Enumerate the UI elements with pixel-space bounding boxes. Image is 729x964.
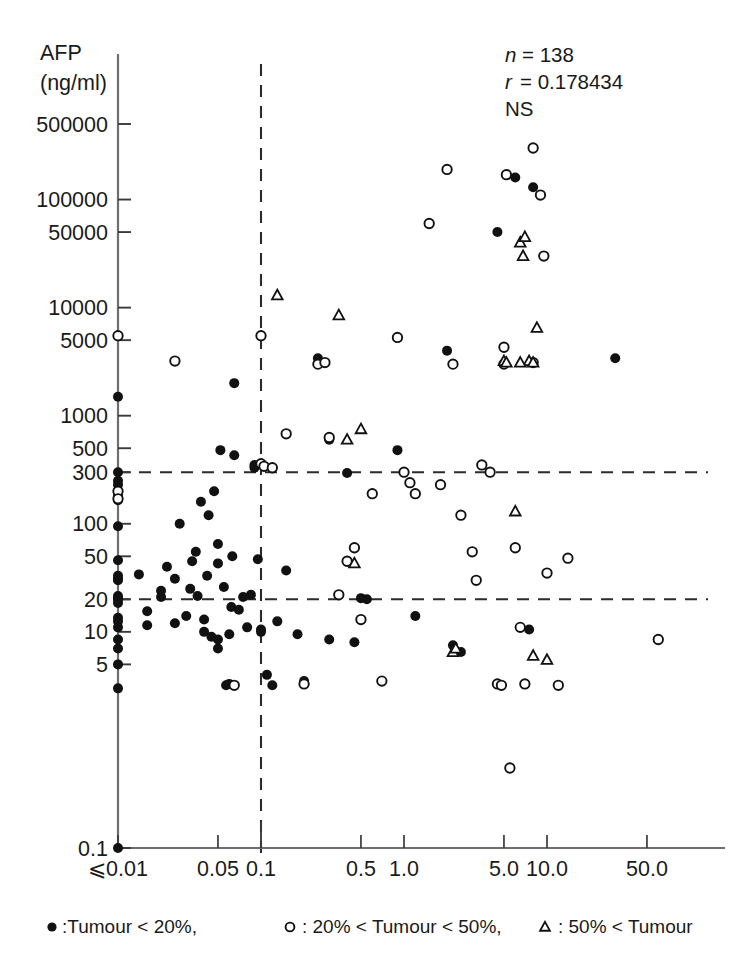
data-point-0-40 — [202, 571, 212, 581]
data-point-0-37 — [196, 497, 206, 507]
data-point-2-14 — [532, 322, 543, 332]
y-axis-unit: (ng/ml) — [40, 71, 107, 95]
data-point-1-29 — [472, 576, 481, 585]
y-tick-label-10: 10000 — [48, 296, 108, 320]
data-point-0-48 — [215, 445, 225, 455]
data-point-0-7 — [113, 613, 123, 623]
y-tick-label-2: 10 — [84, 620, 108, 644]
data-point-0-75 — [342, 468, 352, 478]
data-point-0-29 — [170, 618, 180, 628]
data-point-0-28 — [162, 562, 172, 572]
data-point-1-18 — [377, 676, 386, 685]
data-point-0-30 — [170, 574, 180, 584]
data-point-2-8 — [510, 506, 521, 516]
data-point-1-26 — [448, 359, 457, 368]
data-point-1-0 — [113, 331, 122, 340]
data-point-1-13 — [334, 590, 343, 599]
y-tick-label-7: 500 — [72, 437, 108, 461]
data-point-1-15 — [350, 543, 359, 552]
data-point-0-56 — [229, 378, 239, 388]
y-tick-label-4: 50 — [84, 545, 108, 569]
data-point-1-8 — [281, 429, 290, 438]
data-point-0-34 — [187, 556, 197, 566]
y-tick-label-11: 50000 — [48, 221, 108, 245]
data-point-2-16 — [542, 654, 553, 664]
data-point-1-41 — [528, 143, 537, 152]
legend-marker-triangle — [540, 922, 550, 931]
x-tick-label-2: 0.1 — [246, 857, 276, 881]
data-point-1-33 — [497, 681, 506, 690]
data-point-0-20 — [113, 476, 123, 486]
data-point-0-44 — [213, 644, 223, 654]
data-point-0-3 — [113, 644, 123, 654]
data-point-1-22 — [411, 489, 420, 498]
y-tick-label-12: 100000 — [36, 188, 108, 212]
data-point-1-36 — [502, 170, 511, 179]
x-tick-label-1: 0.05 — [197, 857, 239, 881]
data-point-0-70 — [293, 629, 303, 639]
data-point-1-37 — [505, 763, 514, 772]
data-point-1-39 — [516, 623, 525, 632]
annotation-significance: NS — [505, 97, 533, 120]
x-tick-label-6: 10.0 — [526, 857, 568, 881]
data-point-1-20 — [399, 468, 408, 477]
y-tick-label-3: 20 — [84, 588, 108, 612]
data-point-1-21 — [405, 478, 414, 487]
data-point-0-35 — [191, 547, 201, 557]
data-point-0-0 — [113, 843, 123, 853]
data-point-0-68 — [272, 616, 282, 626]
y-tick-label-5: 100 — [72, 512, 108, 536]
data-point-0-49 — [219, 582, 229, 592]
y-tick-label-8: 1000 — [60, 404, 108, 428]
data-point-0-39 — [199, 615, 209, 625]
data-point-0-78 — [362, 594, 372, 604]
y-axis-title: AFP — [40, 41, 82, 65]
data-point-1-25 — [442, 165, 451, 174]
data-point-0-25 — [142, 606, 152, 616]
data-point-1-27 — [456, 511, 465, 520]
data-point-1-46 — [554, 681, 563, 690]
data-point-0-65 — [256, 627, 266, 637]
data-point-1-7 — [268, 463, 277, 472]
data-point-0-63 — [253, 554, 263, 564]
data-point-1-38 — [511, 543, 520, 552]
x-tick-label-7: 50.0 — [626, 857, 668, 881]
data-point-0-14 — [113, 571, 123, 581]
annotation-n-symbol: n — [505, 43, 516, 66]
data-point-1-30 — [477, 460, 486, 469]
data-point-1-17 — [368, 489, 377, 498]
scatter-plot-figure: 0.15102050100300500100050001000050000100… — [0, 0, 729, 964]
data-point-0-27 — [156, 586, 166, 596]
legend-label-1: : 20% < Tumour < 50%, — [302, 916, 502, 937]
data-point-1-49 — [113, 494, 122, 503]
data-point-0-81 — [442, 346, 452, 356]
data-point-1-16 — [356, 615, 365, 624]
y-tick-label-6: 300 — [72, 461, 108, 485]
data-point-0-73 — [324, 634, 334, 644]
data-point-0-41 — [204, 510, 214, 520]
data-point-1-4 — [256, 331, 265, 340]
data-point-0-16 — [113, 521, 123, 531]
data-point-1-3 — [230, 681, 239, 690]
legend-marker-filled-circle — [47, 922, 56, 931]
data-point-0-45 — [213, 634, 223, 644]
data-point-0-67 — [267, 680, 277, 690]
data-point-0-21 — [113, 467, 123, 477]
data-point-1-23 — [424, 219, 433, 228]
data-point-1-28 — [468, 547, 477, 556]
data-point-1-2 — [170, 356, 179, 365]
annotation-r-symbol: r — [505, 70, 513, 93]
annotation-r-value: = 0.178434 — [520, 70, 623, 93]
data-point-0-47 — [213, 539, 223, 549]
data-point-0-2 — [113, 659, 123, 669]
data-point-1-19 — [393, 333, 402, 342]
data-point-0-1 — [113, 683, 123, 693]
data-point-0-66 — [262, 670, 272, 680]
data-point-0-52 — [224, 629, 234, 639]
data-point-0-46 — [213, 558, 223, 568]
data-point-0-24 — [142, 620, 152, 630]
data-point-0-69 — [281, 565, 291, 575]
x-tick-label-3: 0.5 — [346, 857, 376, 881]
data-point-1-9 — [299, 679, 308, 688]
data-point-0-32 — [181, 611, 191, 621]
